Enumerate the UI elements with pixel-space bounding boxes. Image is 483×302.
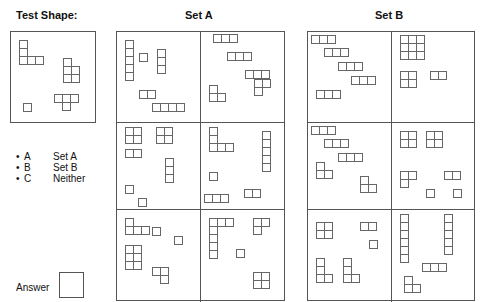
shape-cell xyxy=(368,184,377,193)
shape-cell xyxy=(209,172,218,181)
shape-cell xyxy=(147,90,156,99)
set-a-vertical-divider xyxy=(200,32,201,302)
shape-cell xyxy=(236,249,245,258)
shape-cell xyxy=(139,53,148,62)
shape-cell xyxy=(141,226,150,235)
shape-cell xyxy=(174,236,183,245)
bullet-icon: • xyxy=(16,173,20,184)
shape-cell xyxy=(133,135,142,144)
set-a-horizontal-divider-2 xyxy=(117,209,284,210)
shape-cell xyxy=(160,275,169,284)
shape-cell xyxy=(408,79,417,88)
shape-cell xyxy=(354,62,363,71)
shape-cell xyxy=(35,56,44,65)
option-key: B xyxy=(24,162,31,173)
shape-cell xyxy=(225,143,234,152)
shape-cell xyxy=(261,218,270,227)
shape-cell xyxy=(62,102,71,111)
shape-cell xyxy=(165,174,174,183)
shape-cell xyxy=(217,93,226,102)
shape-cell xyxy=(324,170,333,179)
shape-cell xyxy=(252,189,261,198)
option-label: Set B xyxy=(53,162,77,173)
set-b-title: Set B xyxy=(375,9,403,21)
shape-cell xyxy=(452,171,461,180)
shape-cell xyxy=(324,274,333,283)
shape-cell xyxy=(453,189,462,198)
set-b-horizontal-divider-2 xyxy=(308,209,474,210)
shape-cell xyxy=(229,34,238,43)
shape-cell xyxy=(412,284,421,293)
set-b-grid xyxy=(307,31,475,301)
shape-cell xyxy=(434,139,443,148)
shape-cell xyxy=(327,35,336,44)
option-key: C xyxy=(24,173,31,184)
shape-cell xyxy=(438,71,447,80)
shape-cell xyxy=(438,263,447,272)
shape-cell xyxy=(133,261,142,270)
shape-cell xyxy=(400,254,409,263)
option-label: Set A xyxy=(53,151,77,162)
shape-cell xyxy=(369,240,378,249)
bullet-icon: • xyxy=(16,162,20,173)
set-b-horizontal-divider-1 xyxy=(308,122,474,123)
shape-cell xyxy=(133,149,142,158)
shape-cell xyxy=(71,74,80,83)
bullet-icon: • xyxy=(16,151,20,162)
answer-input-box[interactable] xyxy=(59,272,84,298)
shape-cell xyxy=(262,79,271,88)
shape-cell xyxy=(327,126,336,135)
shape-cell xyxy=(408,171,417,180)
shape-cell xyxy=(351,274,360,283)
shape-cell xyxy=(176,103,185,112)
shape-cell xyxy=(262,163,271,172)
shape-cell xyxy=(324,230,333,239)
shape-cell xyxy=(138,198,147,207)
shape-cell xyxy=(444,246,453,255)
shape-cell xyxy=(416,51,425,60)
set-b-vertical-divider xyxy=(391,32,392,302)
shape-cell xyxy=(340,48,349,57)
shape-cell xyxy=(164,135,173,144)
shape-cell xyxy=(254,87,263,96)
shape-cell xyxy=(225,218,234,227)
shape-cell xyxy=(157,65,166,74)
test-shape-title: Test Shape: xyxy=(16,9,78,21)
option-label: Neither xyxy=(53,173,85,184)
shape-cell xyxy=(23,103,32,112)
set-a-horizontal-divider-1 xyxy=(117,122,284,123)
shape-cell xyxy=(400,179,409,188)
shape-cell xyxy=(220,194,229,203)
shape-cell xyxy=(261,280,270,289)
shape-cell xyxy=(354,153,363,162)
set-a-title: Set A xyxy=(185,9,213,21)
shape-cell xyxy=(408,139,417,148)
shape-cell xyxy=(209,250,218,259)
shape-cell xyxy=(367,76,376,85)
option-key: A xyxy=(24,151,31,162)
shape-cell xyxy=(125,72,134,81)
shape-cell xyxy=(253,226,262,235)
shape-cell xyxy=(152,227,161,236)
shape-cell xyxy=(70,94,79,103)
shape-cell xyxy=(340,139,349,148)
shape-cell xyxy=(368,222,377,231)
shape-cell xyxy=(261,70,270,79)
shape-cell xyxy=(243,52,252,61)
answer-label: Answer xyxy=(16,282,49,293)
shape-cell xyxy=(426,189,435,198)
shape-cell xyxy=(125,185,134,194)
shape-cell xyxy=(332,90,341,99)
